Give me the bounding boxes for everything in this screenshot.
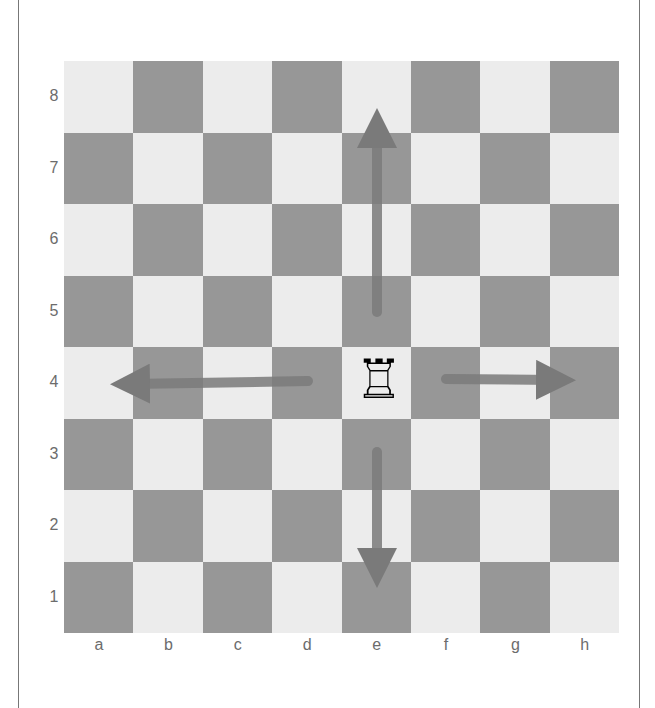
white-rook-icon: ♖: [354, 350, 404, 410]
arrow-right-icon: [446, 379, 556, 380]
arrow-left-icon: [130, 381, 308, 384]
